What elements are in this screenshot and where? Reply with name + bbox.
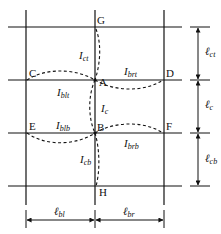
- label-iblt: Iblt: [56, 86, 70, 100]
- node-e: E: [29, 120, 36, 132]
- curve-c: [90, 80, 95, 133]
- joint-a: [93, 78, 96, 81]
- curve-ct: [95, 29, 100, 80]
- label-icb: Icb: [79, 153, 91, 167]
- label-ibrt: Ibrt: [123, 65, 138, 79]
- label-lc: ℓc: [205, 98, 214, 112]
- curve-brb: [95, 124, 163, 133]
- label-lct: ℓct: [205, 45, 216, 59]
- node-g: G: [97, 14, 105, 26]
- label-iblb: Iblb: [55, 119, 70, 133]
- curve-blb: [27, 133, 95, 143]
- vertical-dim-labels: ℓct ℓc ℓcb: [205, 45, 217, 166]
- horizontal-dimensions: [26, 210, 164, 228]
- node-b: B: [97, 121, 104, 133]
- node-a: A: [99, 76, 107, 88]
- node-f: F: [166, 120, 172, 132]
- node-d: D: [166, 67, 174, 79]
- label-lcb: ℓcb: [205, 152, 217, 166]
- frame-diagram: G C A D E B F H Ict Ibrt Iblt Ic Iblb Ib…: [0, 0, 221, 234]
- label-ibrb: Ibrb: [123, 137, 139, 151]
- label-lbr: ℓbr: [123, 205, 136, 219]
- label-lbl: ℓbl: [54, 205, 66, 219]
- label-ic: Ic: [100, 102, 109, 116]
- joint-b: [93, 131, 96, 134]
- node-h: H: [99, 186, 107, 198]
- frame-grid: [8, 10, 182, 205]
- curve-blt: [27, 71, 95, 80]
- stiffness-labels: Ict Ibrt Iblt Ic Iblb Ibrb Icb: [55, 49, 139, 167]
- label-ict: Ict: [78, 49, 89, 63]
- node-c: C: [29, 67, 36, 79]
